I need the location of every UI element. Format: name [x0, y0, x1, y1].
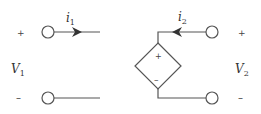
port1-bottom-terminal — [42, 92, 54, 104]
port2-bottom-wire — [158, 89, 206, 98]
port1-current-label: i1 — [66, 11, 75, 27]
source-plus-sign: + — [155, 52, 162, 61]
port1-plus-sign: + — [17, 28, 25, 38]
port2-top-terminal — [206, 26, 218, 38]
port1-top-terminal — [42, 26, 54, 38]
port2-top-wire — [158, 32, 206, 43]
port2-minus-sign: – — [238, 92, 243, 103]
port2-plus-sign: + — [238, 28, 246, 38]
port2-bottom-terminal — [206, 92, 218, 104]
port1-voltage-label: V1 — [11, 62, 25, 78]
port2-voltage-label: V2 — [235, 62, 249, 78]
source-minus-sign: – — [154, 75, 159, 85]
port2-current-label: i2 — [178, 10, 187, 26]
circuit-diagram: + – V1 i1 + – V2 i2 + – — [0, 0, 261, 114]
port1-minus-sign: – — [16, 92, 21, 103]
